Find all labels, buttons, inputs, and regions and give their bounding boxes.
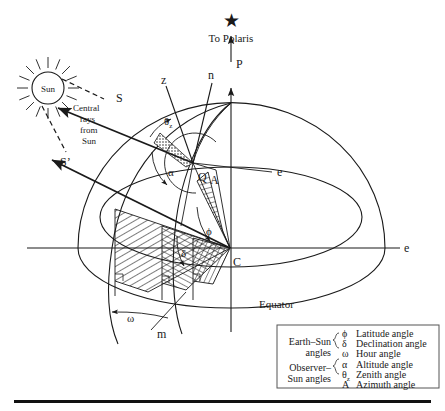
meridian-m-label: m: [157, 327, 167, 341]
declination-angle-label: δ: [181, 247, 186, 259]
altitude-angle-label: α: [168, 166, 174, 178]
polaris-label: To Polaris: [209, 32, 254, 44]
latitude-angle-label: ϕ: [206, 225, 212, 237]
meridian-m-line: [151, 292, 186, 330]
sun-caption-line-3: from: [80, 125, 98, 135]
sun-ray-upper-label: S: [116, 91, 123, 105]
sun-caption-line-2: rays: [80, 114, 95, 124]
sun-hour-circle-arc: [173, 103, 231, 334]
meridian-m-group: [151, 292, 186, 330]
sun-disc-label: Sun: [41, 84, 56, 94]
east-label-inner: e: [277, 165, 282, 179]
sun-caption-line-1: Central: [73, 103, 100, 113]
equator-label: Equator: [259, 298, 294, 310]
diagram-canvas: ★ To Polaris P Sun Central rays from Sun…: [0, 0, 445, 411]
sun-caption-line-4: Sun: [82, 136, 97, 146]
legend-group1-line1: Earth–Sun: [289, 336, 331, 347]
center-label: C: [233, 255, 241, 269]
sun-ray-to-observer: [58, 108, 193, 163]
legend-name: Hour angle: [356, 348, 401, 359]
hour-angle-arc: [112, 312, 168, 318]
legend-box: Earth–Sun angles Observer– Sun angles ϕ …: [277, 325, 439, 390]
celestial-sphere-figure: ★ To Polaris P Sun Central rays from Sun…: [0, 0, 445, 411]
legend-group1-line2: angles: [305, 347, 331, 358]
legend-group2-line2: Sun angles: [287, 373, 331, 384]
zenith-axis-label: z: [161, 73, 166, 87]
legend-symbol: ω: [342, 348, 349, 359]
polar-axis-label: P: [236, 57, 243, 71]
sun-dashed-connector-lower: [42, 106, 66, 152]
surface-normal-line: [193, 83, 212, 163]
east-label-outer: e: [404, 241, 409, 255]
legend-group2-line1: Observer–: [289, 362, 332, 373]
observer-label: Q: [198, 170, 207, 184]
bottom-rule: [14, 400, 431, 403]
diagram-labels: ★ To Polaris P Sun Central rays from Sun…: [41, 10, 409, 341]
normal-axis-label: n: [208, 68, 214, 82]
legend-symbol: A: [342, 379, 350, 390]
legend-name: Azimuth angle: [356, 379, 416, 390]
polaris-star-icon: ★: [223, 10, 240, 31]
hour-angle-label: ω: [127, 312, 134, 324]
zenith-angle-label: θz: [164, 115, 172, 130]
azimuth-angle-label: A: [210, 173, 219, 187]
sun-ray-lower-label: S’: [60, 155, 71, 169]
